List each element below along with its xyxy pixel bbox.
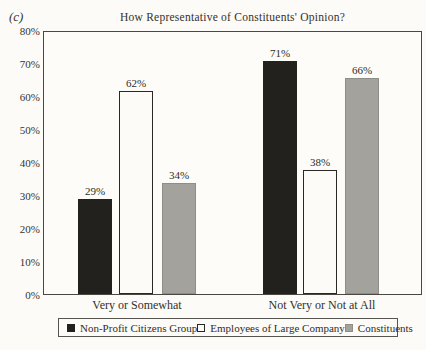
y-axis-tick-label: 30% xyxy=(0,189,40,203)
chart-title: How Representative of Constituents' Opin… xyxy=(43,11,422,23)
y-axis-tick-label: 50% xyxy=(0,123,40,137)
figure: (c) How Representative of Constituents' … xyxy=(0,0,426,350)
legend-item-nonprofit: Non-Profit Citizens Group xyxy=(67,322,197,334)
y-axis: 80% 70% 60% 50% 40% 30% 20% 10% 0% xyxy=(0,0,40,350)
bar-value-label: 38% xyxy=(310,156,330,168)
x-category-label-notvery: Not Very or Not at All xyxy=(269,298,376,313)
legend-label-nonprofit: Non-Profit Citizens Group xyxy=(80,322,197,334)
y-axis-tick-label: 60% xyxy=(0,90,40,104)
y-axis-tick-label: 0% xyxy=(0,288,40,302)
legend-swatch-constituents xyxy=(345,324,353,332)
legend-label-constituents: Constituents xyxy=(358,322,413,334)
legend-swatch-employees xyxy=(197,324,205,332)
bar-value-label: 34% xyxy=(169,169,189,181)
bar-slot-employees-very: 62% xyxy=(119,32,153,294)
bar-nonprofit-notvery xyxy=(263,61,297,294)
bar-employees-very xyxy=(119,91,153,294)
bar-value-label: 71% xyxy=(270,47,290,59)
bar-value-label: 62% xyxy=(126,77,146,89)
bar-constituents-very xyxy=(162,183,196,294)
plot-area: 29% 62% 34% 71% 38% 66% xyxy=(43,31,422,295)
x-category-label-very: Very or Somewhat xyxy=(92,298,181,313)
y-axis-tick-label: 70% xyxy=(0,57,40,71)
legend-swatch-nonprofit xyxy=(67,324,75,332)
legend-label-employees: Employees of Large Company xyxy=(210,322,345,334)
bar-slot-constituents-notvery: 66% xyxy=(345,32,379,294)
legend-item-employees: Employees of Large Company xyxy=(197,322,345,334)
bar-value-label: 29% xyxy=(85,185,105,197)
bar-constituents-notvery xyxy=(345,78,379,294)
legend: Non-Profit Citizens Group Employees of L… xyxy=(58,318,398,337)
bar-slot-nonprofit-notvery: 71% xyxy=(263,32,297,294)
bar-slot-constituents-very: 34% xyxy=(162,32,196,294)
y-axis-tick-label: 10% xyxy=(0,255,40,269)
bar-slot-employees-notvery: 38% xyxy=(303,32,337,294)
bar-value-label: 66% xyxy=(352,64,372,76)
bar-nonprofit-very xyxy=(78,199,112,294)
bar-slot-nonprofit-very: 29% xyxy=(78,32,112,294)
bar-employees-notvery xyxy=(303,170,337,294)
y-axis-tick-label: 80% xyxy=(0,24,40,38)
legend-item-constituents: Constituents xyxy=(345,322,413,334)
y-axis-tick-label: 20% xyxy=(0,222,40,236)
y-axis-tick-label: 40% xyxy=(0,156,40,170)
